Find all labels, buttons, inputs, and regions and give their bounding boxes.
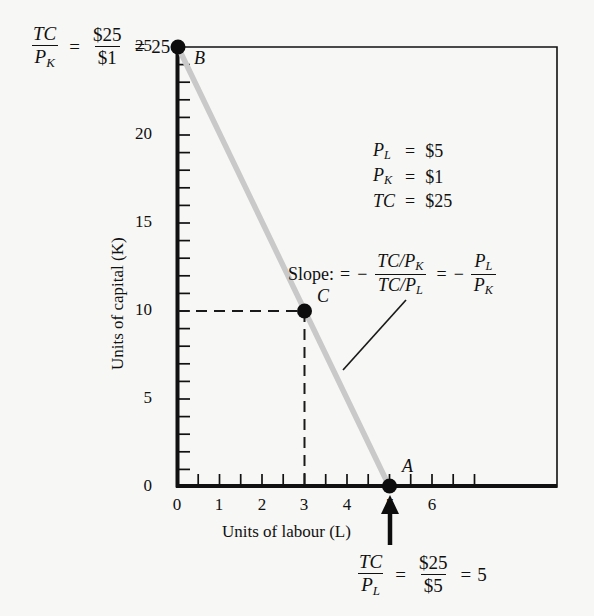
x-tick-label-5: 5 xyxy=(377,495,403,515)
price-row-tc: TC = $25 xyxy=(370,190,455,213)
tl-equals-2: = xyxy=(134,36,145,58)
x-tick-label-0: 0 xyxy=(164,495,190,515)
y-tick-label-5: 5 xyxy=(124,388,152,408)
bf-result: 5 xyxy=(477,564,487,586)
x-tick-label-2: 2 xyxy=(249,495,275,515)
bf-equals-1: = xyxy=(395,564,406,586)
price-symbol-pl: PL xyxy=(370,139,398,164)
point-label-a: A xyxy=(402,456,413,477)
y-tick-label-0: 0 xyxy=(124,476,152,496)
slope-leader-line xyxy=(343,300,406,370)
slope-minus-1: − xyxy=(357,264,367,285)
y-tick-label-10: 10 xyxy=(124,300,152,320)
point-marker-c xyxy=(297,304,312,319)
dollar25-numerator: $25 xyxy=(90,25,125,46)
price-row-pl: PL = $5 xyxy=(370,139,455,164)
slope-f1-denominator: TC/PL xyxy=(375,274,426,297)
slope-annotation: Slope: = − TC/PK TC/PL = − PL PK xyxy=(288,252,500,298)
price-symbol-pk: PK xyxy=(370,164,398,189)
dollar5-denominator: $5 xyxy=(421,574,446,596)
price-value-pl: $5 xyxy=(422,139,455,164)
y-tick-label-15: 15 xyxy=(124,212,152,232)
slope-equals-1: = xyxy=(340,264,350,285)
tc-over-pl-formula: TC PL = $25 $5 = 5 xyxy=(352,552,487,597)
price-symbol-tc: TC xyxy=(370,190,398,213)
slope-f2-denominator: PK xyxy=(471,274,496,297)
x-tick-label-1: 1 xyxy=(206,495,232,515)
dollar1-denominator: $1 xyxy=(95,46,120,68)
slope-minus-2: − xyxy=(454,264,464,285)
dollar25-numerator-bottom: $25 xyxy=(416,553,451,574)
x-tick-label-6: 6 xyxy=(419,495,445,515)
bf-equals-2: = xyxy=(460,564,471,586)
slope-fraction-2: PL PK xyxy=(471,252,496,298)
tc-over-pl-fraction: TC PL xyxy=(356,552,385,597)
tc-numerator-bottom: TC xyxy=(356,552,385,573)
tl-equals-1: = xyxy=(69,36,80,58)
x-tick-label-4: 4 xyxy=(334,495,360,515)
slope-f1-numerator: TC/PK xyxy=(374,252,426,274)
y-axis-title: Units of capital (K) xyxy=(108,237,128,370)
x-tick-label-3: 3 xyxy=(291,495,317,515)
figure-canvas: 25 20 15 10 5 0 0 1 2 3 4 5 6 Units of c… xyxy=(0,0,594,616)
dollar-fraction-l: $25 $5 xyxy=(416,553,451,596)
tl-result: 25 xyxy=(151,36,170,58)
y-tick-label-20: 20 xyxy=(124,124,152,144)
price-equals-pl: = xyxy=(398,139,422,164)
point-label-b: B xyxy=(194,48,205,69)
price-row-pk: PK = $1 xyxy=(370,164,455,189)
price-value-pk: $1 xyxy=(422,164,455,189)
slope-fraction-1: TC/PK TC/PL xyxy=(374,252,426,298)
slope-equals-2: = xyxy=(437,264,447,285)
point-marker-b xyxy=(171,40,186,55)
price-value-tc: $25 xyxy=(422,190,455,213)
tc-over-pk-formula: TC PK = $25 $1 = 25 xyxy=(26,24,170,69)
dollar-fraction-k: $25 $1 xyxy=(90,25,125,68)
price-equals-tc: = xyxy=(398,190,422,213)
pl-denominator: PL xyxy=(358,573,383,597)
tc-over-pk-fraction: TC PK xyxy=(30,24,59,69)
x-axis-title: Units of labour (L) xyxy=(222,522,351,542)
point-marker-a xyxy=(382,479,397,494)
pk-denominator: PK xyxy=(32,45,58,69)
slope-f2-numerator: PL xyxy=(472,252,496,274)
tc-numerator: TC xyxy=(30,24,59,45)
slope-label: Slope: xyxy=(288,264,334,285)
price-parameter-box: PL = $5 PK = $1 TC = $25 xyxy=(370,139,455,213)
price-equals-pk: = xyxy=(398,164,422,189)
